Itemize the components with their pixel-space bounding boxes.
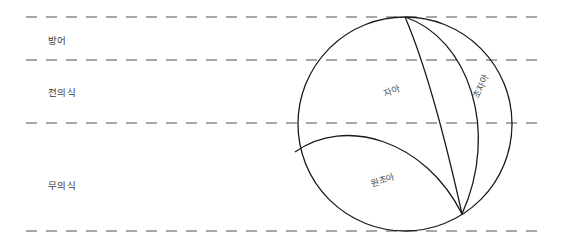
dashed-boundary-lines — [26, 17, 545, 231]
level-label-defense: 방어 — [48, 33, 67, 47]
psyche-structure-diagram: 방어 전의식 무의식 자아 초자아 원초아 — [0, 0, 570, 247]
ego-superego-divider-arc — [405, 17, 462, 214]
level-label-unconscious: 무의식 — [48, 178, 76, 192]
psyche-circle-outline — [298, 17, 512, 231]
diagram-canvas — [0, 0, 570, 247]
level-label-preconscious: 전의식 — [48, 85, 76, 99]
